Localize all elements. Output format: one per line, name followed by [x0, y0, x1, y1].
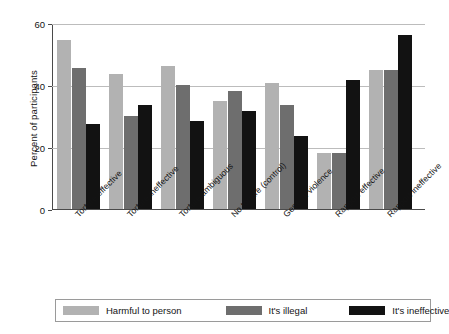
y-axis-tick-label: 0	[40, 205, 45, 216]
y-axis-tick	[48, 86, 52, 87]
legend-swatch	[226, 306, 262, 315]
y-axis-tick	[48, 24, 52, 25]
y-axis-tick-label: 40	[34, 81, 45, 92]
chart-legend: Harmful to personIt's illegalIt's ineffe…	[55, 299, 431, 322]
y-axis-tick	[48, 148, 52, 149]
bar	[228, 91, 242, 209]
legend-label: It's ineffective	[392, 305, 449, 316]
y-axis-title: Percent of participants	[28, 39, 39, 199]
legend-item: It's ineffective	[349, 305, 449, 316]
bar	[109, 74, 123, 209]
legend-swatch	[63, 306, 99, 315]
y-axis-tick	[48, 210, 52, 211]
y-axis-line	[52, 24, 53, 210]
legend-item: It's illegal	[226, 305, 308, 316]
bar	[265, 83, 279, 209]
gridline	[52, 24, 425, 25]
y-axis-tick-label: 60	[34, 19, 45, 30]
legend-label: Harmful to person	[106, 305, 182, 316]
bar	[57, 40, 71, 209]
legend-label: It's illegal	[269, 305, 308, 316]
y-axis-tick-label: 20	[34, 143, 45, 154]
bar	[72, 68, 86, 209]
legend-swatch	[349, 306, 385, 315]
bar	[384, 70, 398, 210]
bar	[176, 85, 190, 209]
legend-item: Harmful to person	[63, 305, 182, 316]
bar	[280, 105, 294, 209]
bar	[398, 35, 412, 209]
x-axis-category-labels: Torture effectiveTorture ineffectiveTort…	[52, 212, 438, 286]
bar	[369, 70, 383, 210]
bar	[213, 101, 227, 210]
bar	[124, 116, 138, 209]
